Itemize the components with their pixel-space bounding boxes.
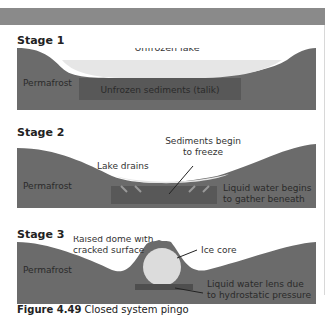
sediments-label-1: Sediments begin [165,136,241,146]
figure-number: Figure 4.49 [17,304,81,315]
ice-core [143,248,181,286]
figure-title: Closed system pingo [81,304,188,315]
liquid-label-2: to gather beneath [223,194,305,204]
sediments-label-2: to freeze [183,147,223,157]
dome-label-2: cracked surface [73,245,145,255]
permafrost-label: Permafrost [23,181,72,191]
stage-2-diagram: Sediments begin to freeze Lake drains Pe… [17,136,316,208]
liquid-label-1: Liquid water begins [223,183,312,193]
lake-label: Unfrozen lake [134,48,199,53]
permafrost-label: Permafrost [23,78,72,88]
lens-label-1: Liquid water lens due [207,279,304,289]
freezing-sediments [111,186,217,204]
stage-1-diagram: Unfrozen lake Permafrost Unfrozen sedime… [17,48,316,110]
page-rule [324,25,325,295]
water-lens [135,284,193,290]
lens-label-2: to hydrostatic pressure [207,290,312,300]
permafrost-label: Permafrost [23,265,72,275]
lake-drains-label: Lake drains [97,161,149,171]
ice-core-label: Ice core [201,245,237,255]
stage-1-title: Stage 1 [17,34,64,47]
stage-3-diagram: Raised dome with cracked surface Ice cor… [17,236,316,304]
header-bar [0,8,325,25]
dome-label-1: Raised dome with [73,236,153,244]
talik-label: Unfrozen sediments (talik) [100,85,219,95]
figure-caption: Figure 4.49 Closed system pingo [17,304,189,315]
